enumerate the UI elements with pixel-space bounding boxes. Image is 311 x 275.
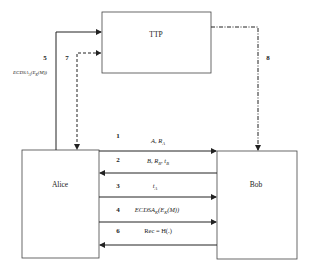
link-5-alice-to-ttp: 5 ECDSAA(EK(M)) xyxy=(12,32,101,150)
step-6-number: 6 xyxy=(116,227,120,235)
arrow-7-head-alice xyxy=(74,144,80,150)
step-3-label: tA xyxy=(153,182,158,191)
step-5-label: ECDSAA(EK(M)) xyxy=(12,70,47,77)
arrow-5 xyxy=(56,32,101,150)
step-5-number: 5 xyxy=(43,54,47,62)
ttp-box: TTP xyxy=(102,12,211,73)
alice-box: Alice xyxy=(22,150,99,258)
arrow-8 xyxy=(211,27,258,150)
bob-label: Bob xyxy=(250,180,263,189)
message-6: 6 Rec = H(.) xyxy=(100,227,217,245)
message-2: 2 B, RB, tB xyxy=(100,156,217,173)
message-3: 3 tA xyxy=(99,182,216,197)
protocol-diagram: TTP Alice Bob 5 ECDSAA(EK(M)) 7 8 1 A, R… xyxy=(0,0,311,275)
message-4: 4 ECDSAK(EK(M)) xyxy=(99,206,216,222)
step-7-number: 7 xyxy=(65,54,69,62)
step-6-label: Rec = H(.) xyxy=(144,227,172,235)
step-2-number: 2 xyxy=(116,156,120,164)
step-2-label: B, RB, tB xyxy=(147,157,169,166)
step-8-number: 8 xyxy=(266,54,270,62)
link-8-ttp-to-bob: 8 xyxy=(211,27,270,150)
ttp-label: TTP xyxy=(149,30,162,39)
step-4-number: 4 xyxy=(116,206,120,214)
step-4-label: ECDSAK(EK(M)) xyxy=(134,206,179,215)
step-3-number: 3 xyxy=(116,182,120,190)
alice-label: Alice xyxy=(52,180,69,189)
arrow-7 xyxy=(77,53,101,149)
link-7-ttp-alice: 7 xyxy=(65,50,101,150)
bob-box: Bob xyxy=(217,151,297,259)
step-1-number: 1 xyxy=(116,132,120,140)
message-1: 1 A, RA xyxy=(99,132,216,151)
step-1-label: A, RA xyxy=(150,137,165,146)
arrow-7-head-ttp xyxy=(96,50,101,56)
